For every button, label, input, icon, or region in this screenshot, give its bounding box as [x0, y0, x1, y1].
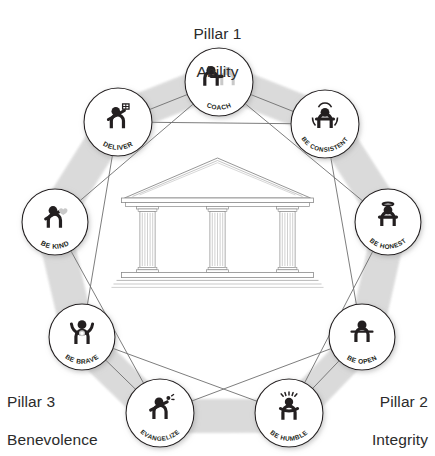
node-be-kind[interactable]: BE KIND: [22, 189, 88, 255]
diagram-canvas: COACHBE CONSISTENTBE HONESTBE OPENBE HUM…: [0, 0, 435, 456]
node-be-brave[interactable]: BE BRAVE: [49, 304, 115, 370]
pillar-2-label: Pillar 2 Integrity: [0, 374, 428, 456]
pillar-2-number: Pillar 2: [0, 393, 428, 412]
pillar-2-name: Integrity: [0, 431, 428, 450]
pillar-1-label: Pillar 1 Ability: [0, 6, 435, 101]
pillar-1-name: Ability: [0, 63, 435, 82]
pillar-1-number: Pillar 1: [0, 25, 435, 44]
node-be-honest[interactable]: BE HONEST: [355, 189, 421, 255]
greek-temple-icon: [112, 158, 324, 287]
node-be-open[interactable]: BE OPEN: [329, 304, 395, 370]
